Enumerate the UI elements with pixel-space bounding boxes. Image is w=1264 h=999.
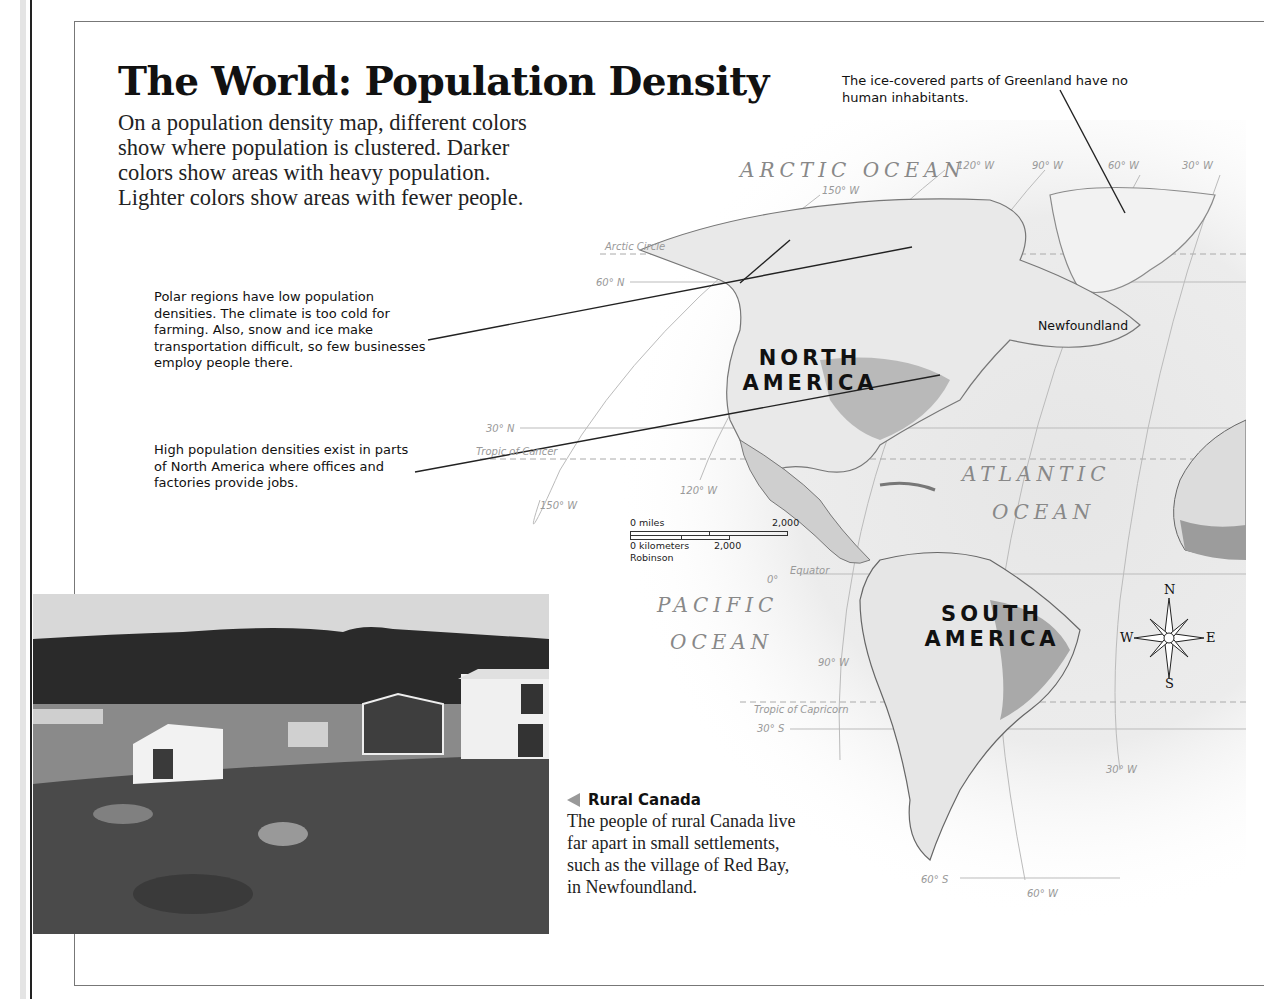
grid-label-0: 0° <box>767 574 778 585</box>
compass-w: W <box>1120 630 1133 645</box>
grid-label-30s: 30° S <box>757 723 784 734</box>
intro-paragraph: On a population density map, different c… <box>118 110 558 210</box>
south-america-line-1: SOUTH <box>912 602 1072 627</box>
rural-canada-photo <box>33 594 549 934</box>
grid-label-equator: Equator <box>790 565 829 576</box>
north-america-line-2: AMERICA <box>730 371 890 396</box>
caption-heading: Rural Canada <box>567 791 797 809</box>
page-title: The World: Population Density <box>118 62 769 101</box>
map-scale: 0 miles 2,000 0 kilometers 2,000 Robinso… <box>630 517 800 564</box>
newfoundland-label: Newfoundland <box>1038 318 1128 333</box>
scale-miles-label: 0 miles <box>630 517 664 528</box>
compass-n: N <box>1164 582 1175 597</box>
grid-label-120w: 120° W <box>680 485 717 496</box>
north-america-callout: High population densities exist in parts… <box>154 442 424 492</box>
compass-e: E <box>1206 630 1216 645</box>
compass-rose: N S E W <box>1122 582 1216 690</box>
photo-caption: Rural Canada The people of rural Canada … <box>567 791 797 898</box>
atlantic-ocean-label-2: OCEAN <box>992 500 1095 524</box>
scale-km-label: 0 kilometers <box>630 540 689 551</box>
arctic-ocean-label: ARCTIC OCEAN <box>740 158 966 182</box>
scale-miles-value: 2,000 <box>772 517 799 528</box>
polar-callout: Polar regions have low population densit… <box>154 289 434 372</box>
south-america-label: SOUTH AMERICA <box>912 602 1072 652</box>
compass-star-icon <box>1122 582 1216 690</box>
compass-s: S <box>1165 676 1174 691</box>
grid-label-tropic-cancer: Tropic of Cancer <box>476 446 557 457</box>
scale-projection: Robinson <box>630 552 800 564</box>
left-pointer-icon <box>567 793 580 807</box>
caption-body: The people of rural Canada live far apar… <box>567 810 797 898</box>
pacific-ocean-label-1: PACIFIC <box>657 593 778 617</box>
grid-label-150w-top: 150° W <box>822 185 859 196</box>
caption-heading-text: Rural Canada <box>588 791 701 809</box>
scale-km-value: 2,000 <box>714 540 741 551</box>
greenland-callout: The ice-covered parts of Greenland have … <box>842 73 1132 106</box>
north-america-line-1: NORTH <box>730 346 890 371</box>
grid-label-tropic-capricorn: Tropic of Capricorn <box>754 704 849 715</box>
grid-label-60s: 60° S <box>921 874 948 885</box>
grid-label-30n: 30° N <box>486 423 514 434</box>
grid-label-60n: 60° N <box>596 277 624 288</box>
grid-label-150w: 150° W <box>540 500 577 511</box>
south-america-line-2: AMERICA <box>912 627 1072 652</box>
grid-label-120w-top: 120° W <box>957 160 994 171</box>
pacific-ocean-label-2: OCEAN <box>670 630 773 654</box>
grid-label-90w: 90° W <box>818 657 849 668</box>
grid-label-30w: 30° W <box>1106 764 1137 775</box>
atlantic-ocean-label-1: ATLANTIC <box>962 462 1110 486</box>
grid-label-90w-top: 90° W <box>1032 160 1063 171</box>
grid-label-60w: 60° W <box>1027 888 1058 899</box>
grid-label-30w-top: 30° W <box>1182 160 1213 171</box>
grid-label-arctic-circle: Arctic Circle <box>605 241 665 252</box>
north-america-label: NORTH AMERICA <box>730 346 890 396</box>
grid-label-60w-top: 60° W <box>1108 160 1139 171</box>
